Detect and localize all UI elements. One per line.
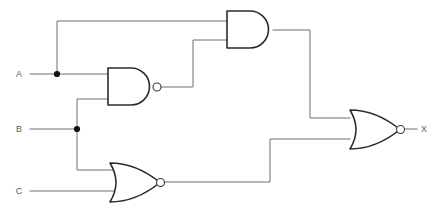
wire-input-a-branch-to-and xyxy=(57,21,227,74)
input-label-a: A xyxy=(16,69,22,79)
output-nor-gate-body xyxy=(350,110,400,149)
wire-input-b-branch-to-nand xyxy=(77,99,108,129)
wire-layer xyxy=(30,21,417,191)
nor-gate-body xyxy=(110,163,160,202)
junction-dot-a xyxy=(54,71,60,77)
nand-inversion-bubble-icon xyxy=(153,83,161,91)
gate-nor2-output[interactable] xyxy=(350,110,405,149)
and-gate-body xyxy=(227,11,269,48)
gate-nor1[interactable] xyxy=(110,163,165,202)
circuit-svg-canvas: A B C X xyxy=(0,0,445,217)
wire-nor-output-to-output-nor xyxy=(164,139,350,182)
wire-and-output-to-output-nor xyxy=(273,30,350,118)
nand-gate-body xyxy=(108,68,150,105)
logic-circuit-diagram: A B C X xyxy=(0,0,445,217)
junction-layer xyxy=(54,71,80,132)
input-label-b: B xyxy=(16,124,22,134)
gate-and1[interactable] xyxy=(227,11,269,48)
nor-inversion-bubble-icon xyxy=(157,179,165,187)
junction-dot-b xyxy=(74,126,80,132)
wire-nand-output-to-and xyxy=(161,40,227,87)
output-nor-inversion-bubble-icon xyxy=(397,126,405,134)
input-label-c: C xyxy=(16,186,23,196)
gate-nand1[interactable] xyxy=(108,68,161,105)
output-label-x: X xyxy=(421,124,427,134)
